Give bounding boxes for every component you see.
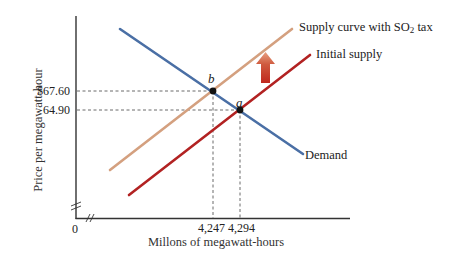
y-tick-price-a: 64.90 [43, 104, 72, 116]
x-tick-origin: 0 [72, 223, 78, 235]
x-tick-qty-b: 4,247 [198, 222, 225, 234]
demand-label: Demand [305, 149, 347, 162]
initial-supply-curve [129, 55, 310, 195]
x-tick-qty-a: 4,294 [228, 222, 255, 234]
point-a-label: a [236, 96, 243, 109]
supply-with-tax-label-tail: tax [414, 20, 432, 34]
shift-up-arrow-icon [256, 52, 275, 83]
x-axis-label: Millons of megawatt-hours [148, 235, 284, 250]
equilibrium-point-b [210, 88, 217, 95]
supply-with-tax-label-main: Supply curve with SO [299, 20, 410, 34]
point-b-label: b [208, 72, 215, 85]
supply-demand-chart [0, 0, 450, 260]
initial-supply-label: Initial supply [316, 48, 382, 61]
supply-with-tax-label: Supply curve with SO2 tax [299, 21, 433, 35]
guide-lines [77, 91, 240, 218]
supply-with-tax-curve [110, 29, 292, 170]
y-tick-price-b: $67.60 [37, 85, 72, 97]
